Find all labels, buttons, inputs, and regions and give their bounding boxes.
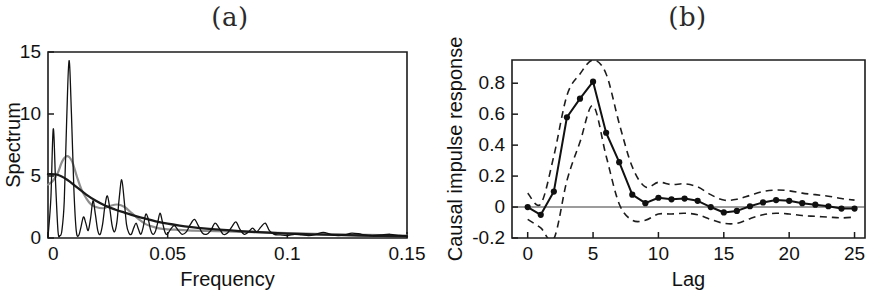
panel-b-ytick-label: 0 xyxy=(494,196,505,217)
panel-a-series-periodogram xyxy=(48,61,407,237)
panel-b-data-point xyxy=(681,195,687,201)
panel-b-xtick-label: 25 xyxy=(844,243,865,264)
panel-b-data-point xyxy=(564,114,570,120)
panel-b-plot: 0510152025-0.200.20.40.60.8Causal impuls… xyxy=(440,0,879,292)
figure-container: (a) 00.050.10.15051015SpectrumFrequency … xyxy=(0,0,879,292)
panel-b-data-point xyxy=(825,203,831,209)
panel-b-data-point xyxy=(629,192,635,198)
panel-b-xtick-label: 15 xyxy=(713,243,734,264)
panel-b-data-point xyxy=(812,202,818,208)
panel-b-xtick-label: 10 xyxy=(648,243,669,264)
panel-b-data-point xyxy=(773,197,779,203)
panel-a-plot: 00.050.10.15051015SpectrumFrequency xyxy=(0,0,440,292)
panel-b-data-point xyxy=(786,198,792,204)
panel-b-data-point xyxy=(708,204,714,210)
panel-b-data-point xyxy=(603,130,609,136)
panel-b-data-point xyxy=(668,196,674,202)
panel-b-data-point xyxy=(616,159,622,165)
panel-b-ytick-label: 0.2 xyxy=(479,165,505,186)
panel-b-axis-box xyxy=(512,60,865,238)
panel-b-ytick-label: 0.8 xyxy=(479,72,505,93)
panel-b-xlabel: Lag xyxy=(672,268,705,290)
panel-b-ylabel: Causal impulse response xyxy=(444,37,466,262)
panel-b-data-point xyxy=(747,203,753,209)
panel-b-data-point xyxy=(642,200,648,206)
panel-b-ytick-label: 0.6 xyxy=(479,103,505,124)
panel-a-xtick-label: 0 xyxy=(48,243,59,264)
panel-b-xtick-label: 0 xyxy=(522,243,533,264)
panel-a-ytick-label: 15 xyxy=(20,41,41,62)
panel-b-data-point xyxy=(655,195,661,201)
panel-a-xtick-label: 0.15 xyxy=(389,243,426,264)
panel-a-ylabel: Spectrum xyxy=(2,102,24,188)
panel-b-impulse-response: (b) 0510152025-0.200.20.40.60.8Causal im… xyxy=(440,0,879,292)
panel-a-xtick-label: 0.1 xyxy=(274,243,300,264)
panel-b-data-point xyxy=(760,199,766,205)
panel-b-series-estimate xyxy=(528,82,855,215)
panel-b-ytick-label: -0.2 xyxy=(472,227,505,248)
panel-b-curves xyxy=(525,60,858,241)
panel-a-xlabel: Frequency xyxy=(180,268,275,290)
panel-b-series-upper-confidence-bound xyxy=(528,60,855,205)
panel-b-xtick-label: 5 xyxy=(588,243,599,264)
panel-a-axis-box xyxy=(48,52,407,238)
panel-b-data-point xyxy=(551,188,557,194)
panel-b-data-point xyxy=(577,96,583,102)
panel-b-xtick-label: 20 xyxy=(779,243,800,264)
panel-b-data-point xyxy=(695,198,701,204)
panel-a-ytick-label: 5 xyxy=(30,165,41,186)
panel-a-series-smoothed-spectrum xyxy=(48,156,407,235)
panel-b-data-point xyxy=(590,79,596,85)
panel-b-ytick-label: 0.4 xyxy=(479,134,506,155)
panel-b-data-point xyxy=(799,200,805,206)
panel-b-data-point xyxy=(525,204,531,210)
panel-a-ytick-label: 0 xyxy=(30,227,41,248)
panel-b-data-point xyxy=(538,212,544,218)
panel-b-series-lower-confidence-bound xyxy=(528,106,855,241)
panel-b-data-point xyxy=(838,205,844,211)
panel-a-xtick-label: 0.05 xyxy=(149,243,186,264)
panel-b-data-point xyxy=(851,205,857,211)
panel-b-data-point xyxy=(721,209,727,215)
panel-a-spectrum: (a) 00.050.10.15051015SpectrumFrequency xyxy=(0,0,440,292)
panel-b-data-point xyxy=(734,208,740,214)
